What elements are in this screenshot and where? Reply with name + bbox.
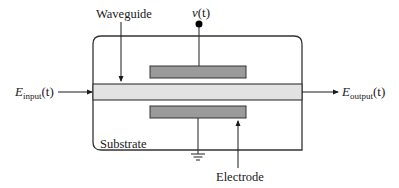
voltage-label-arg: (t)	[198, 5, 210, 20]
electrode-label: Electrode	[216, 170, 264, 184]
svg-text:Einput(t): Einput(t)	[14, 84, 54, 101]
output-field-symbol: E	[341, 84, 350, 99]
input-field-subscript: input	[23, 91, 42, 101]
waveguide-label: Waveguide	[96, 7, 152, 21]
svg-text:v(t): v(t)	[192, 5, 210, 20]
ground-icon	[191, 154, 205, 160]
output-field-arg: (t)	[373, 84, 385, 99]
substrate-label: Substrate	[100, 137, 147, 151]
voltage-terminal-dot	[196, 21, 203, 28]
input-field-symbol: E	[14, 84, 23, 99]
bottom-electrode	[150, 106, 246, 118]
waveguide	[93, 84, 302, 100]
input-field-arg: (t)	[41, 84, 53, 99]
modulator-diagram: v(t) Waveguide Einput(t) Eoutput(t) Subs…	[0, 0, 399, 188]
output-field-subscript: output	[350, 91, 374, 101]
svg-text:Eoutput(t): Eoutput(t)	[341, 84, 385, 101]
top-electrode	[150, 66, 246, 78]
